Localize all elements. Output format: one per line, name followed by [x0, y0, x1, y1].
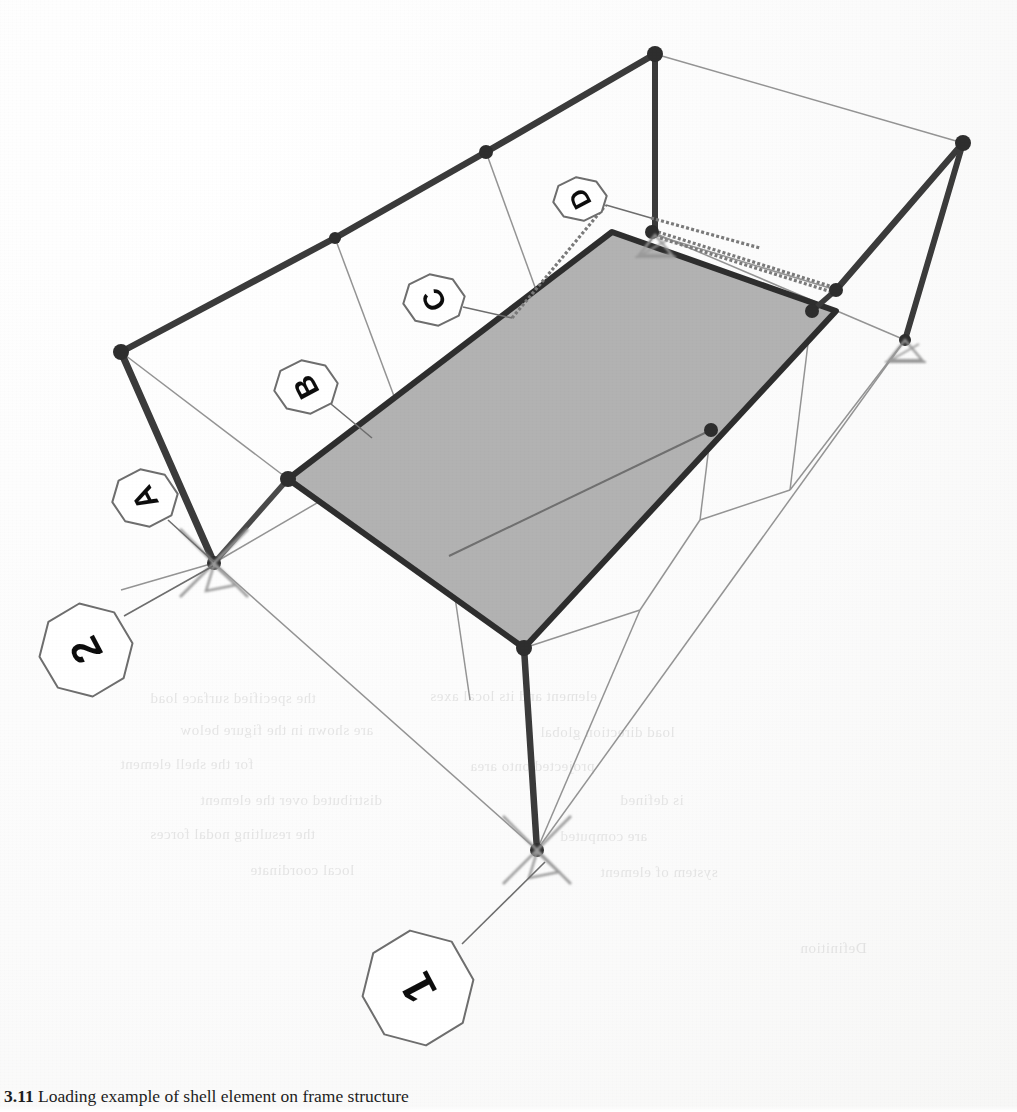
figure-caption: 3.11 Loading example of shell element on… — [0, 1088, 1017, 1112]
structural-node[interactable] — [805, 304, 819, 318]
callout-2[interactable]: 2 — [40, 604, 133, 697]
callout-1[interactable]: 1 — [363, 931, 474, 1046]
structural-node[interactable] — [280, 471, 296, 487]
callout-B[interactable]: B — [274, 360, 337, 413]
callout-A[interactable]: A — [112, 469, 177, 526]
callout-D[interactable]: D — [553, 177, 606, 221]
structural-node[interactable] — [955, 135, 971, 151]
callout-leader-line — [606, 205, 651, 218]
structural-node[interactable] — [647, 46, 663, 62]
structural-node[interactable] — [704, 423, 718, 437]
callout-leader-line — [462, 862, 545, 944]
structural-node[interactable] — [829, 283, 843, 297]
structural-frame-diagram: 12ABCD — [0, 0, 1017, 1112]
structural-node[interactable] — [516, 640, 532, 656]
structural-node[interactable] — [113, 344, 129, 360]
figure-page: the specified surface loadelement and it… — [0, 0, 1017, 1112]
structural-node[interactable] — [479, 145, 493, 159]
caption-number: 3.11 — [4, 1088, 34, 1106]
callout-C[interactable]: C — [403, 274, 464, 325]
structural-node[interactable] — [329, 232, 341, 244]
callout-leader-line — [124, 566, 213, 616]
shell-element-panel[interactable] — [288, 232, 836, 648]
caption-text: Loading example of shell element on fram… — [38, 1088, 409, 1106]
